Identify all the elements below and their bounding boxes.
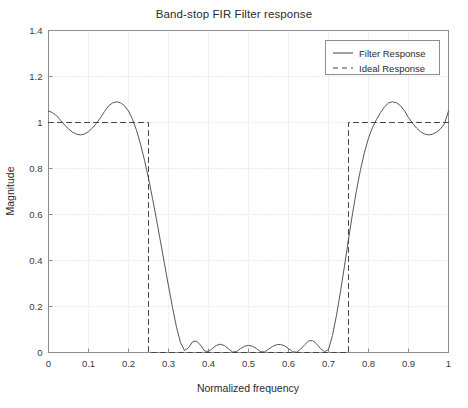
x-axis-label: Normalized frequency [197,382,300,394]
x-tick-label: 0.6 [282,358,295,369]
y-axis-ticks: 00.20.40.60.811.21.4 [29,25,52,358]
x-tick-label: 0.5 [242,358,255,369]
gridlines [49,31,449,353]
x-tick-label: 0.4 [202,358,215,369]
legend-label: Filter Response [359,48,426,59]
x-tick-label: 0.9 [402,358,415,369]
x-axis-ticks: 00.10.20.30.40.50.60.70.80.91 [46,349,451,369]
x-tick-label: 0.8 [362,358,375,369]
x-tick-label: 1 [446,358,451,369]
y-tick-label: 0.4 [29,255,42,266]
x-tick-label: 0.7 [322,358,335,369]
x-tick-label: 0 [46,358,51,369]
y-tick-label: 1 [37,117,42,128]
x-tick-label: 0.1 [82,358,95,369]
y-tick-label: 0 [37,347,42,358]
y-tick-label: 1.4 [29,25,42,36]
y-tick-label: 1.2 [29,71,42,82]
legend-label: Ideal Response [359,63,425,74]
y-tick-label: 0.6 [29,209,42,220]
y-axis-label: Magnitude [4,166,16,215]
legend[interactable]: Filter ResponseIdeal Response [326,41,440,75]
y-tick-label: 0.2 [29,301,42,312]
figure-canvas: Band-stop FIR Filter response 00.10.20.3… [0,0,468,408]
x-tick-label: 0.3 [162,358,175,369]
y-tick-label: 0.8 [29,163,42,174]
band-stop-filter-response-chart: 00.10.20.30.40.50.60.70.80.91 00.20.40.6… [0,0,468,408]
x-tick-label: 0.2 [122,358,135,369]
